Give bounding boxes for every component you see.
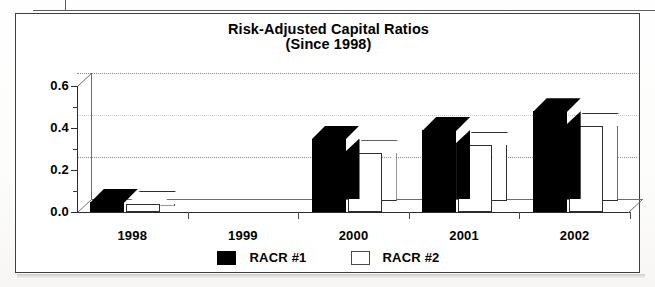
x-axis-label-1999: 1999	[203, 228, 283, 243]
bar-top-face	[90, 189, 138, 203]
bar-front-face	[312, 139, 346, 213]
bar-side-face	[160, 204, 175, 206]
y-axis-label-0.0: 0.0	[27, 204, 69, 219]
y-tick-0.3	[73, 149, 78, 150]
x-tick-1999	[298, 212, 299, 219]
bar-racr-1-2002	[533, 98, 581, 212]
y-axis-back-edge	[91, 73, 92, 199]
y-axis-label-0.2: 0.2	[27, 162, 69, 177]
bar-side-face	[492, 145, 507, 201]
y-axis-labels: 0.00.20.40.6	[16, 14, 69, 274]
bar-racr-1-2000	[312, 126, 360, 213]
bar-front-face	[533, 111, 567, 212]
bar-racr-1-2001	[422, 117, 470, 212]
x-axis-line	[77, 212, 630, 213]
bar-top-face	[533, 98, 581, 112]
y-tick-0.2	[71, 170, 78, 171]
legend-label: RACR #2	[383, 250, 440, 265]
bar-side-face	[603, 126, 618, 201]
y-tick-0.1	[73, 191, 78, 192]
y-axis-label-0.6: 0.6	[27, 78, 69, 93]
axis-top-connector	[77, 73, 92, 87]
floor-right-connector	[628, 199, 643, 213]
y-tick-0.6	[71, 86, 78, 87]
gridline-0.6	[77, 73, 637, 74]
bar-side-face	[346, 139, 360, 200]
y-axis-label-0.4: 0.4	[27, 120, 69, 135]
chart-legend: RACR #1RACR #2	[16, 250, 641, 265]
bar-top-face	[312, 126, 360, 140]
bar-front-face	[90, 202, 124, 213]
x-tick-2001	[519, 212, 520, 219]
x-axis-label-2001: 2001	[424, 228, 504, 243]
legend-item-racr-1[interactable]: RACR #1	[217, 250, 306, 265]
bar-top-face	[422, 117, 470, 131]
table-cell-divider	[65, 0, 66, 11]
bar-side-face	[456, 130, 470, 199]
legend-swatch-black	[217, 251, 236, 265]
plot-area: 0.00.20.40.6 19981999200020012002	[16, 14, 641, 274]
bar-front-face	[422, 130, 456, 212]
x-axis-label-2000: 2000	[314, 228, 394, 243]
legend-swatch-white	[351, 251, 370, 265]
page-shadow	[17, 274, 645, 278]
legend-label: RACR #1	[249, 250, 306, 265]
y-tick-0.4	[71, 128, 78, 129]
x-tick-1998	[188, 212, 189, 219]
x-tick-2002	[630, 212, 631, 219]
bar-racr-1-1998	[90, 189, 138, 213]
legend-item-racr-2[interactable]: RACR #2	[351, 250, 440, 265]
table-row-partial	[33, 0, 655, 11]
chart-container: Risk-Adjusted Capital Ratios (Since 1998…	[15, 13, 640, 273]
bar-side-face	[567, 111, 581, 199]
y-tick-0.5	[73, 107, 78, 108]
x-tick-2000	[409, 212, 410, 219]
y-tick-0	[71, 212, 78, 213]
x-axis-label-2002: 2002	[535, 228, 615, 243]
bar-side-face	[382, 153, 397, 201]
x-axis-label-1998: 1998	[92, 228, 172, 243]
